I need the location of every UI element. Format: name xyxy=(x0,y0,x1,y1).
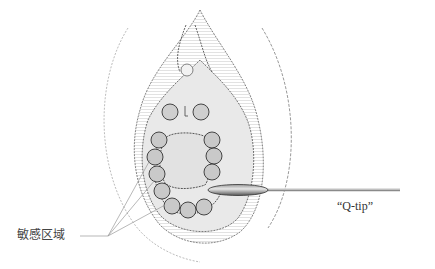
qtip-icon xyxy=(208,185,400,196)
outer-contour-right xyxy=(262,28,291,228)
diagram-canvas: 敏感区域 “Q-tip” xyxy=(0,0,435,269)
qtip-label: “Q-tip” xyxy=(337,199,373,214)
vaginal-opening xyxy=(160,133,211,189)
sensitive-zone-label: 敏感区域 xyxy=(17,225,65,242)
clitoris xyxy=(181,64,193,76)
anatomical-illustration xyxy=(0,0,435,269)
